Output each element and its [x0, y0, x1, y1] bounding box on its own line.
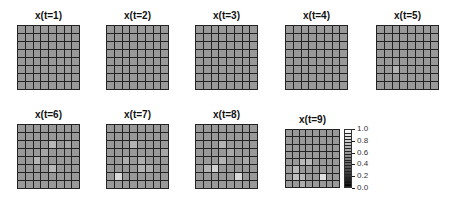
heatmap-cell — [123, 82, 130, 89]
heatmap-cell — [161, 181, 168, 188]
heatmap-cell — [18, 181, 25, 188]
heatmap-cell — [72, 66, 79, 73]
heatmap-cell — [250, 125, 257, 132]
heatmap-cell — [154, 74, 161, 81]
heatmap-cell — [123, 50, 130, 57]
colorbar-tick — [352, 164, 355, 165]
heatmap-cell — [154, 26, 161, 33]
colorbar-tick — [352, 176, 355, 177]
heatmap-cell — [431, 74, 438, 81]
heatmap-cell — [161, 34, 168, 41]
heatmap-cell — [393, 50, 400, 57]
heatmap-cell — [57, 50, 64, 57]
heatmap-cell — [34, 34, 41, 41]
heatmap-cell — [18, 165, 25, 172]
heatmap-cell — [227, 58, 234, 65]
heatmap-cell — [115, 149, 122, 156]
heatmap-cell — [424, 74, 431, 81]
heatmap-cell — [123, 74, 130, 81]
heatmap-grid — [17, 124, 80, 189]
heatmap-cell — [286, 145, 292, 151]
heatmap-cell — [302, 34, 309, 41]
heatmap-cell — [235, 34, 242, 41]
heatmap-cell — [235, 66, 242, 73]
heatmap-cell — [325, 58, 332, 65]
heatmap-cell — [327, 174, 333, 180]
heatmap-cell — [72, 149, 79, 156]
heatmap-cell — [65, 165, 72, 172]
heatmap-cell — [130, 181, 137, 188]
heatmap-cell — [161, 82, 168, 89]
heatmap-cell — [57, 34, 64, 41]
heatmap-cell — [227, 74, 234, 81]
heatmap-cell — [377, 26, 384, 33]
heatmap-cell — [72, 58, 79, 65]
heatmap-cell — [219, 149, 226, 156]
heatmap-cell — [34, 165, 41, 172]
heatmap-cell — [294, 74, 301, 81]
heatmap-cell — [154, 133, 161, 140]
heatmap-cell — [146, 149, 153, 156]
heatmap-grid — [106, 25, 169, 90]
heatmap-cell — [317, 34, 324, 41]
heatmap-cell — [293, 152, 299, 158]
heatmap-cell — [235, 173, 242, 180]
heatmap-cell — [212, 42, 219, 49]
heatmap-grid — [195, 124, 258, 189]
heatmap-cell — [306, 145, 312, 151]
heatmap-cell — [286, 58, 293, 65]
heatmap-cell — [115, 66, 122, 73]
heatmap-cell — [72, 82, 79, 89]
heatmap-cell — [300, 181, 306, 187]
heatmap-cell — [196, 66, 203, 73]
heatmap-cell — [34, 74, 41, 81]
panel-title: x(t=3) — [185, 10, 268, 21]
heatmap-cell — [235, 165, 242, 172]
heatmap-cell — [243, 42, 250, 49]
heatmap-cell — [293, 159, 299, 165]
heatmap-cell — [235, 82, 242, 89]
heatmap-cell — [196, 133, 203, 140]
colorbar-tick — [352, 153, 355, 154]
heatmap-cell — [302, 74, 309, 81]
heatmap-cell — [26, 141, 33, 148]
heatmap-cell — [57, 74, 64, 81]
heatmap-cell — [196, 58, 203, 65]
heatmap-cell — [72, 74, 79, 81]
heatmap-cell — [161, 133, 168, 140]
panel-title: x(t=7) — [96, 109, 179, 120]
colorbar-divider — [345, 139, 351, 140]
heatmap-cell — [196, 173, 203, 180]
heatmap-cell — [49, 149, 56, 156]
heatmap-cell — [393, 34, 400, 41]
heatmap-cell — [325, 82, 332, 89]
heatmap-cell — [34, 58, 41, 65]
heatmap-cell — [416, 34, 423, 41]
heatmap-cell — [235, 141, 242, 148]
heatmap-cell — [115, 133, 122, 140]
heatmap-cell — [41, 50, 48, 57]
heatmap-cell — [212, 181, 219, 188]
heatmap-cell — [219, 173, 226, 180]
heatmap-cell — [400, 34, 407, 41]
colorbar-divider — [345, 186, 351, 187]
heatmap-cell — [302, 50, 309, 57]
heatmap-cell — [235, 149, 242, 156]
heatmap-cell — [138, 26, 145, 33]
heatmap-cell — [340, 34, 347, 41]
heatmap-cell — [154, 141, 161, 148]
heatmap-cell — [333, 26, 340, 33]
heatmap-cell — [300, 166, 306, 172]
heatmap-cell — [107, 74, 114, 81]
heatmap-cell — [115, 58, 122, 65]
heatmap-cell — [34, 157, 41, 164]
heatmap-cell — [227, 82, 234, 89]
heatmap-cell — [306, 166, 312, 172]
heatmap-cell — [317, 66, 324, 73]
colorbar-divider — [345, 177, 351, 178]
heatmap-cell — [57, 165, 64, 172]
heatmap-cell — [219, 141, 226, 148]
heatmap-cell — [333, 34, 340, 41]
heatmap-cell — [408, 82, 415, 89]
heatmap-cell — [320, 130, 326, 136]
